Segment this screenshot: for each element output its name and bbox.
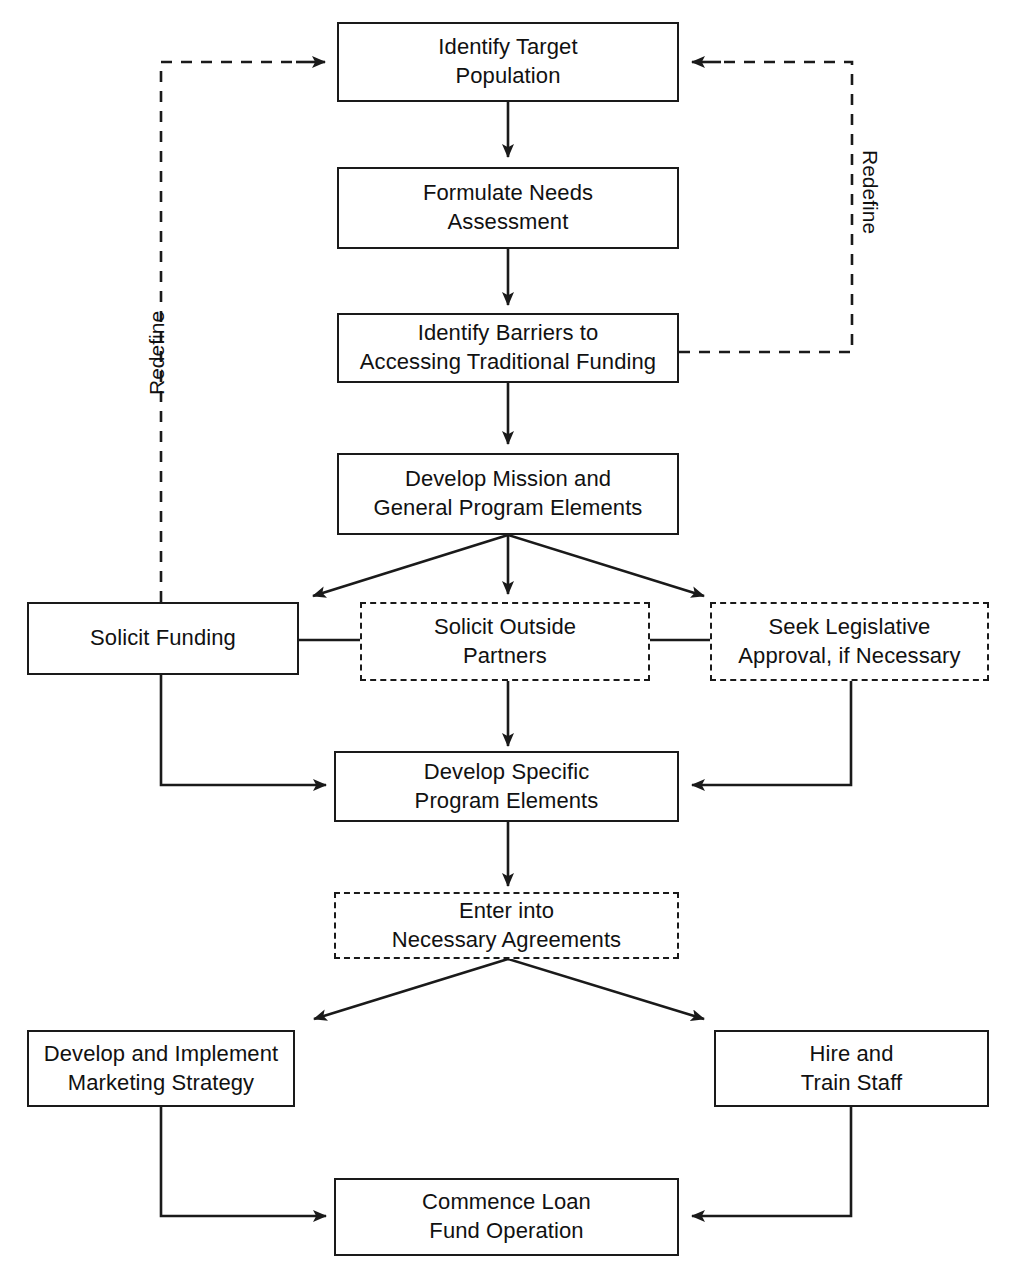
- node-identify-barriers[interactable]: Identify Barriers to Accessing Tradition…: [337, 313, 679, 383]
- node-label: Seek Legislative Approval, if Necessary: [738, 613, 960, 670]
- node-hire-train-staff[interactable]: Hire and Train Staff: [714, 1030, 989, 1107]
- edge-redefine-left: [161, 62, 300, 602]
- node-commence-loan-fund[interactable]: Commence Loan Fund Operation: [334, 1178, 679, 1256]
- edge-mission-to-legislative: [508, 535, 704, 596]
- node-marketing-strategy[interactable]: Develop and Implement Marketing Strategy: [27, 1030, 295, 1107]
- node-label: Develop Mission and General Program Elem…: [374, 465, 643, 522]
- edge-agreements-to-marketing: [314, 959, 508, 1019]
- flowchart-canvas: Identify Target Population Formulate Nee…: [0, 0, 1012, 1281]
- node-label: Solicit Outside Partners: [434, 613, 576, 670]
- node-label: Hire and Train Staff: [801, 1040, 902, 1097]
- node-label: Solicit Funding: [90, 624, 236, 653]
- edge-label-redefine-right: Redefine: [858, 150, 882, 234]
- edge-mission-to-solicit-funding: [313, 535, 508, 596]
- node-label: Commence Loan Fund Operation: [422, 1188, 591, 1245]
- edge-marketing-to-commence: [161, 1107, 326, 1216]
- node-label: Develop Specific Program Elements: [415, 758, 599, 815]
- node-solicit-outside-partners[interactable]: Solicit Outside Partners: [360, 602, 650, 681]
- node-identify-target-population[interactable]: Identify Target Population: [337, 22, 679, 102]
- node-seek-legislative-approval[interactable]: Seek Legislative Approval, if Necessary: [710, 602, 989, 681]
- node-formulate-needs-assessment[interactable]: Formulate Needs Assessment: [337, 167, 679, 249]
- node-label: Develop and Implement Marketing Strategy: [44, 1040, 278, 1097]
- node-enter-into-agreements[interactable]: Enter into Necessary Agreements: [334, 892, 679, 959]
- node-label: Identify Barriers to Accessing Tradition…: [360, 319, 656, 376]
- edge-agreements-to-hire: [508, 959, 704, 1019]
- edge-label-redefine-left: Redefine: [145, 311, 169, 395]
- edge-redefine-right: [679, 62, 852, 352]
- edge-legislative-to-specific: [692, 681, 851, 785]
- node-solicit-funding[interactable]: Solicit Funding: [27, 602, 299, 675]
- node-label: Identify Target Population: [438, 33, 577, 90]
- edge-hire-to-commence: [692, 1107, 851, 1216]
- node-develop-mission[interactable]: Develop Mission and General Program Elem…: [337, 453, 679, 535]
- node-label: Enter into Necessary Agreements: [392, 897, 621, 954]
- node-develop-specific-program-elements[interactable]: Develop Specific Program Elements: [334, 751, 679, 822]
- edge-funding-to-specific: [161, 675, 326, 785]
- node-label: Formulate Needs Assessment: [423, 179, 593, 236]
